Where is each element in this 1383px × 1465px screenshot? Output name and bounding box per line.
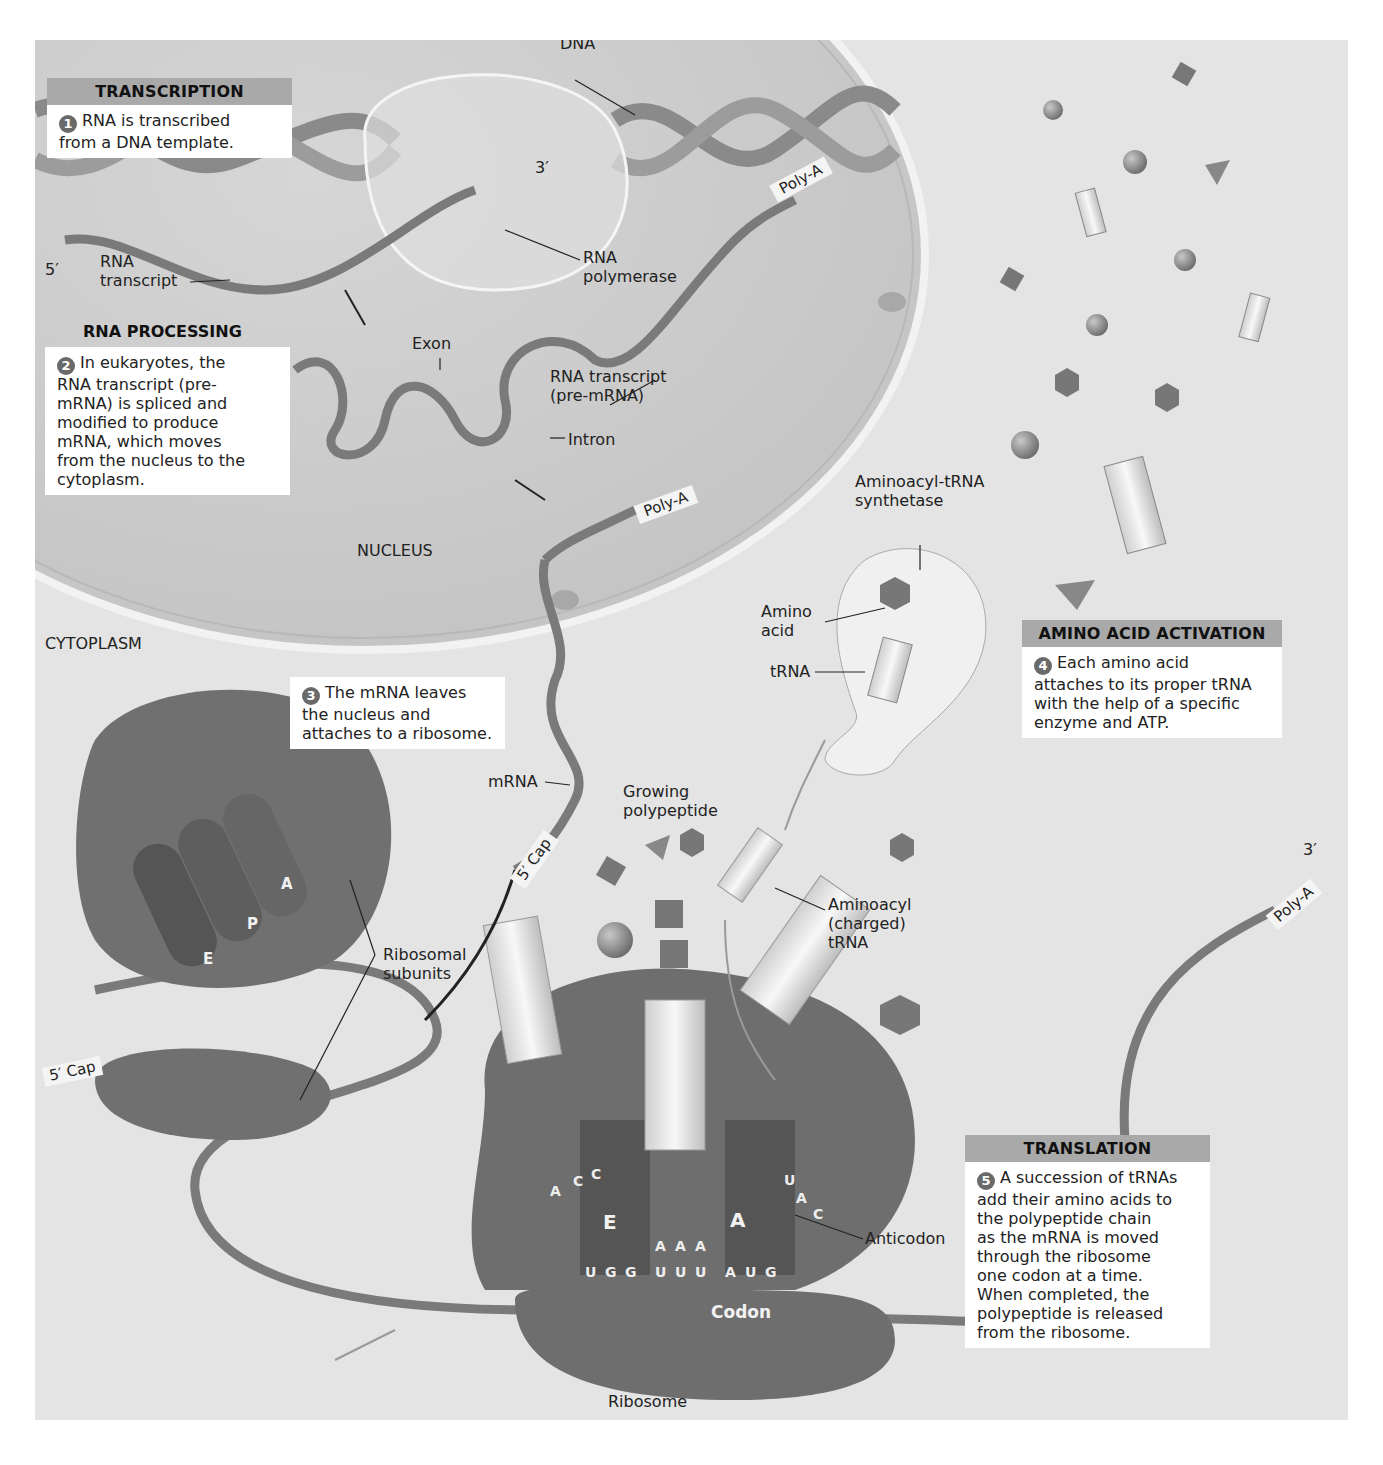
translation-heading: TRANSLATION: [965, 1135, 1210, 1162]
e-site-subunit-label: E: [203, 950, 213, 968]
exon-label: Exon: [412, 334, 451, 353]
a-anticodon-3: C: [813, 1206, 823, 1222]
p-anticodon-2: A: [675, 1238, 686, 1254]
amino-acid-label: Amino acid: [761, 602, 812, 640]
cytoplasm-label: CYTOPLASM: [45, 634, 142, 653]
a-site-label: A: [730, 1208, 745, 1232]
rna-processing-heading: RNA PROCESSING: [83, 322, 242, 341]
nucleus-label: NUCLEUS: [357, 541, 433, 560]
dna-label: DNA: [560, 40, 595, 53]
amino-acid-activation-heading: AMINO ACID ACTIVATION: [1022, 620, 1282, 647]
mrna-base-2: G: [605, 1264, 617, 1280]
transcription-text: 1RNA is transcribed from a DNA template.: [47, 105, 292, 158]
three-prime-dna-label: 3′: [535, 158, 549, 177]
five-prime-label: 5′: [45, 260, 59, 279]
translation-box: TRANSLATION 5A succession of tRNAs add t…: [965, 1135, 1210, 1348]
mrna-base-7: A: [725, 1264, 736, 1280]
step-1-badge: 1: [59, 115, 77, 133]
three-prime-end-label: 3′: [1303, 840, 1317, 859]
mrna-base-5: U: [675, 1264, 686, 1280]
transcription-heading: TRANSCRIPTION: [47, 78, 292, 105]
rna-processing-box: 2In eukaryotes, the RNA transcript (pre-…: [45, 347, 290, 495]
a-anticodon-1: U: [784, 1172, 795, 1188]
aminoacyl-charged-trna-label: Aminoacyl (charged) tRNA: [828, 895, 911, 952]
a-site-subunit-label: A: [281, 875, 293, 893]
mrna-base-4: U: [655, 1264, 666, 1280]
codon-label: Codon: [711, 1302, 771, 1322]
step-2-badge: 2: [57, 357, 75, 375]
e-site-label: E: [603, 1210, 617, 1234]
rna-processing-text: 2In eukaryotes, the RNA transcript (pre-…: [45, 347, 290, 495]
p-anticodon-1: A: [655, 1238, 666, 1254]
anticodon-label: Anticodon: [865, 1229, 945, 1248]
mrna-leaves-box: 3The mRNA leaves the nucleus and attache…: [290, 677, 505, 749]
ribosome-label: Ribosome: [608, 1392, 687, 1411]
e-anticodon-3: C: [591, 1166, 601, 1182]
amino-acid-activation-text: 4Each amino acid attaches to its proper …: [1022, 647, 1282, 738]
e-anticodon-1: A: [550, 1183, 561, 1199]
rna-transcript-pre-mrna-label: RNA transcript (pre-mRNA): [550, 367, 667, 405]
gene-expression-diagram: Poly-A Poly-A Poly-A 5′ Cap 5′ Cap TRANS…: [35, 40, 1348, 1420]
mrna-leaves-text: 3The mRNA leaves the nucleus and attache…: [290, 677, 505, 749]
aminoacyl-trna-synthetase-label: Aminoacyl-tRNA synthetase: [855, 472, 985, 510]
transcription-box: TRANSCRIPTION 1RNA is transcribed from a…: [47, 78, 292, 158]
intron-label: Intron: [568, 430, 615, 449]
step-5-badge: 5: [977, 1172, 995, 1190]
mrna-label: mRNA: [488, 772, 538, 791]
mrna-base-6: U: [695, 1264, 706, 1280]
trna-label: tRNA: [770, 662, 810, 681]
mrna-base-9: G: [765, 1264, 777, 1280]
rna-polymerase-label: RNA polymerase: [583, 248, 677, 286]
p-anticodon-3: A: [695, 1238, 706, 1254]
ribosomal-subunits-label: Ribosomal subunits: [383, 945, 466, 983]
e-anticodon-2: C: [573, 1173, 583, 1189]
step-3-badge: 3: [302, 687, 320, 705]
translation-text: 5A succession of tRNAs add their amino a…: [965, 1162, 1210, 1348]
amino-acid-activation-box: AMINO ACID ACTIVATION 4Each amino acid a…: [1022, 620, 1282, 738]
free-amino-acids: [1000, 62, 1270, 610]
mrna-base-8: U: [745, 1264, 756, 1280]
growing-polypeptide-label: Growing polypeptide: [623, 782, 718, 820]
a-anticodon-2: A: [796, 1190, 807, 1206]
ribosomal-subunits: [76, 690, 391, 1140]
p-site-subunit-label: P: [247, 915, 258, 933]
mrna-base-3: G: [625, 1264, 637, 1280]
step-4-badge: 4: [1034, 657, 1052, 675]
rna-transcript-label: RNA transcript: [100, 252, 177, 290]
mrna-base-1: U: [585, 1264, 596, 1280]
